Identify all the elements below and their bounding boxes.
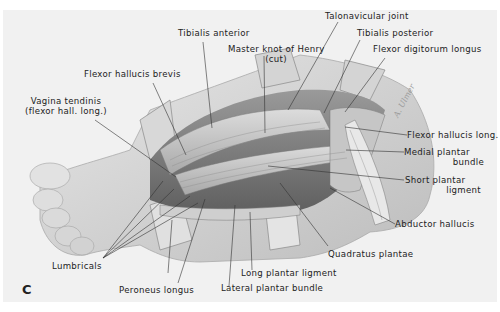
- label-medial-plantar-line1: Medial plantar: [404, 147, 484, 157]
- label-master-knot-line2: (cut): [228, 54, 324, 64]
- label-long-plantar-ligment: Long plantar ligment: [241, 268, 337, 278]
- label-lumbricals: Lumbricals: [52, 261, 102, 271]
- label-quadratus-plantae: Quadratus plantae: [328, 249, 413, 259]
- label-flexor-hallucis-long: Flexor hallucis long.: [407, 130, 499, 140]
- label-medial-plantar-bundle: Medial plantar bundle: [404, 147, 484, 167]
- label-vagina-tendinis-line2: (flexor hall. long.): [22, 106, 110, 116]
- label-short-plantar-ligment: Short plantar ligment: [405, 175, 481, 195]
- label-talonavicular-joint: Talonavicular joint: [325, 11, 409, 21]
- label-short-plantar-line2: ligment: [405, 185, 481, 195]
- label-flexor-hallucis-brevis: Flexor hallucis brevis: [84, 69, 181, 79]
- label-short-plantar-line1: Short plantar: [405, 175, 481, 185]
- label-tibialis-anterior: Tibialis anterior: [178, 28, 250, 38]
- label-tibialis-posterior: Tibialis posterior: [357, 28, 433, 38]
- panel-letter: C: [22, 282, 32, 297]
- label-lateral-plantar-bundle: Lateral plantar bundle: [221, 283, 323, 293]
- label-master-knot-of-henry: Master knot of Henry (cut): [228, 44, 324, 64]
- label-flexor-digitorum-longus: Flexor digitorum longus: [373, 44, 482, 54]
- label-abductor-hallucis: Abductor hallucis: [395, 219, 474, 229]
- label-peroneus-longus: Peroneus longus: [119, 285, 194, 295]
- label-vagina-tendinis-line1: Vagina tendinis: [22, 96, 110, 106]
- label-master-knot-line1: Master knot of Henry: [228, 44, 324, 54]
- label-vagina-tendinis: Vagina tendinis (flexor hall. long.): [22, 96, 110, 116]
- label-medial-plantar-line2: bundle: [404, 157, 484, 167]
